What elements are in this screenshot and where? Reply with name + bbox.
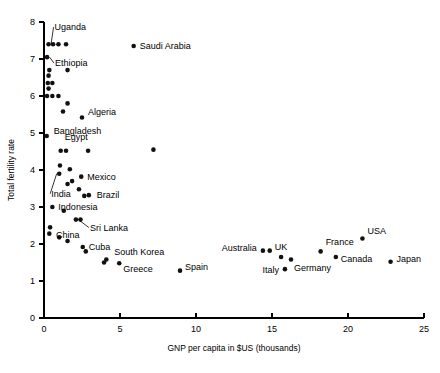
point-label: Japan xyxy=(397,254,422,264)
data-point xyxy=(46,42,51,47)
data-point xyxy=(61,109,66,114)
data-point xyxy=(178,268,183,273)
data-point xyxy=(50,81,55,86)
point-label: Indonesia xyxy=(58,202,97,212)
data-point xyxy=(46,86,51,91)
y-tick-label: 3 xyxy=(30,202,35,212)
data-point xyxy=(77,187,82,192)
x-tick-label: 5 xyxy=(117,324,122,334)
data-point xyxy=(334,255,339,260)
point-label: Algeria xyxy=(88,107,116,117)
label-leader-line xyxy=(50,57,55,63)
data-point xyxy=(283,267,288,272)
data-point xyxy=(68,167,73,172)
y-tick-label: 7 xyxy=(30,54,35,64)
point-label: UK xyxy=(275,242,288,252)
data-point xyxy=(151,147,156,152)
x-tick-label: 15 xyxy=(267,324,277,334)
data-point xyxy=(45,55,50,60)
label-leader-line xyxy=(78,220,89,228)
point-label: Brazil xyxy=(97,190,120,200)
point-label: Saudi Arabia xyxy=(140,41,191,51)
point-label: Greece xyxy=(123,264,153,274)
data-point xyxy=(65,68,70,73)
point-label: Cuba xyxy=(89,242,111,252)
data-point xyxy=(64,148,69,153)
x-tick-label: 0 xyxy=(41,324,46,334)
data-point xyxy=(279,255,284,260)
x-tick-label: 10 xyxy=(191,324,201,334)
point-label: Uganda xyxy=(55,22,87,32)
data-point xyxy=(50,94,55,99)
axis-lines xyxy=(44,22,424,318)
data-point xyxy=(47,231,52,236)
scatter-chart: 0123456780510152025 UgandaSaudi ArabiaEt… xyxy=(0,0,440,373)
data-point xyxy=(74,217,79,222)
point-label: Ethiopia xyxy=(55,58,88,68)
axes xyxy=(44,22,424,318)
point-label: South Korea xyxy=(114,247,164,257)
data-point xyxy=(87,193,92,198)
data-point xyxy=(267,248,272,253)
data-point xyxy=(84,249,89,254)
data-point xyxy=(82,194,87,199)
data-point xyxy=(388,259,393,264)
data-point xyxy=(261,248,266,253)
data-point xyxy=(289,257,294,262)
y-tick-label: 2 xyxy=(30,239,35,249)
y-tick-label: 8 xyxy=(30,17,35,27)
x-tick-label: 20 xyxy=(343,324,353,334)
point-label: Egypt xyxy=(65,132,89,142)
data-point xyxy=(58,163,63,168)
data-point xyxy=(102,260,107,265)
data-point xyxy=(64,42,69,47)
point-label: Canada xyxy=(341,254,373,264)
data-point xyxy=(58,148,63,153)
data-point xyxy=(131,44,136,49)
point-label: Germany xyxy=(294,263,332,273)
point-label: USA xyxy=(367,226,386,236)
data-point xyxy=(57,171,62,176)
data-point xyxy=(65,182,70,187)
y-tick-label: 6 xyxy=(30,91,35,101)
data-point xyxy=(360,236,365,241)
data-point xyxy=(50,205,55,210)
data-point xyxy=(56,94,61,99)
point-label: Spain xyxy=(185,262,208,272)
y-tick-label: 5 xyxy=(30,128,35,138)
point-label: Mexico xyxy=(87,172,116,182)
y-tick-label: 4 xyxy=(30,165,35,175)
data-point xyxy=(46,73,51,78)
y-tick-label: 0 xyxy=(30,313,35,323)
plot-area: 0123456780510152025 UgandaSaudi ArabiaEt… xyxy=(0,0,440,373)
label-leader-line xyxy=(51,27,54,44)
data-point xyxy=(80,115,85,120)
point-label: France xyxy=(326,237,354,247)
y-tick-label: 1 xyxy=(30,276,35,286)
data-point xyxy=(80,245,85,250)
data-point xyxy=(44,134,49,139)
point-labels: UgandaSaudi ArabiaEthiopiaAlgeriaBanglad… xyxy=(50,22,422,275)
data-point xyxy=(318,249,323,254)
data-point xyxy=(48,225,53,230)
data-point xyxy=(46,81,51,86)
data-point xyxy=(65,101,70,106)
point-label: Australia xyxy=(222,243,257,253)
data-point xyxy=(45,94,50,99)
point-label: China xyxy=(56,230,80,240)
data-point xyxy=(56,42,61,47)
data-point xyxy=(79,174,84,179)
point-label: Italy xyxy=(262,265,279,275)
point-label: India xyxy=(51,189,71,199)
tick-marks xyxy=(39,22,424,318)
data-point xyxy=(86,148,91,153)
data-point xyxy=(117,261,122,266)
data-point xyxy=(47,68,52,73)
point-label: Sri Lanka xyxy=(90,223,128,233)
x-axis-title: GNP per capita in $US (thousands) xyxy=(167,343,300,353)
data-point xyxy=(70,179,75,184)
x-tick-label: 25 xyxy=(419,324,429,334)
y-axis-title: Total fertility rate xyxy=(6,139,16,201)
